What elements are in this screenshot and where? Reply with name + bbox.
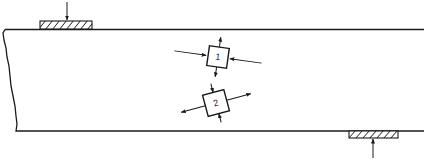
stress-element-1: 1 <box>172 31 265 83</box>
tension-arrow-down-icon <box>215 67 216 77</box>
compression-arrow-top-icon <box>211 84 213 93</box>
stress-element-2: 2 <box>176 74 256 131</box>
tension-arrow-up-icon <box>219 37 220 47</box>
compression-arrow-left-icon <box>174 51 206 55</box>
compression-arrow-bottom-icon <box>219 114 221 123</box>
bottom-reaction-pad <box>348 130 398 158</box>
beam-diagram: 1 2 <box>0 0 424 162</box>
top-load-pad <box>38 2 95 30</box>
diagram-canvas: 1 2 <box>0 0 424 162</box>
tension-arrow-left-icon <box>181 106 205 112</box>
beam-break-line <box>3 30 17 132</box>
tension-arrow-right-icon <box>227 94 251 100</box>
compression-arrow-right-icon <box>230 59 262 63</box>
